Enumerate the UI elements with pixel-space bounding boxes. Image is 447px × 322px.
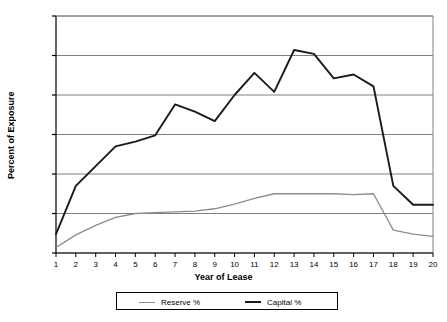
x-tick-label: 19 xyxy=(409,260,418,269)
legend-label-capital: Capital % xyxy=(267,298,301,307)
gridlines xyxy=(56,16,433,253)
legend-item-reserve[interactable]: Reserve % xyxy=(139,296,200,308)
x-tick-label: 12 xyxy=(270,260,279,269)
x-tick-label: 13 xyxy=(290,260,299,269)
x-tick-label: 4 xyxy=(113,260,117,269)
x-tick-label: 8 xyxy=(193,260,197,269)
chart-container: Percent of Exposure 0.0%0.5%1.0%1.5%2.0%… xyxy=(0,0,447,322)
x-tick-label: 5 xyxy=(133,260,137,269)
x-tick-label: 15 xyxy=(329,260,338,269)
x-tick-label: 16 xyxy=(349,260,358,269)
x-tick-label: 7 xyxy=(173,260,177,269)
legend-swatch-capital xyxy=(245,301,261,303)
x-axis-title: Year of Lease xyxy=(0,272,447,282)
x-tick-label: 14 xyxy=(309,260,318,269)
series-line-reserve xyxy=(56,194,433,248)
legend-swatch-reserve xyxy=(139,302,155,303)
legend-item-capital[interactable]: Capital % xyxy=(245,296,301,308)
x-tick-label: 3 xyxy=(93,260,97,269)
x-tick-label: 10 xyxy=(230,260,239,269)
legend-label-reserve: Reserve % xyxy=(161,298,200,307)
x-axis-ticks xyxy=(56,253,433,257)
series-line-capital xyxy=(56,50,433,234)
x-tick-label: 2 xyxy=(74,260,78,269)
x-tick-label: 18 xyxy=(389,260,398,269)
x-tick-label: 6 xyxy=(153,260,157,269)
data-series-lines xyxy=(56,50,433,248)
x-tick-label: 9 xyxy=(213,260,217,269)
chart-legend: Reserve % Capital % xyxy=(116,292,338,310)
x-tick-label: 20 xyxy=(429,260,438,269)
x-tick-label: 1 xyxy=(54,260,58,269)
x-tick-label: 17 xyxy=(369,260,378,269)
x-tick-label: 11 xyxy=(250,260,258,269)
